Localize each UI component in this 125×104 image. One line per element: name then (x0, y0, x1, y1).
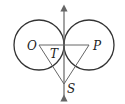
segment-ps (64, 45, 89, 84)
label-p: P (92, 39, 102, 53)
tangent-circles-diagram: O T P S (0, 0, 125, 104)
label-s: S (67, 82, 75, 96)
label-t: T (50, 47, 59, 61)
label-o: O (27, 39, 37, 53)
